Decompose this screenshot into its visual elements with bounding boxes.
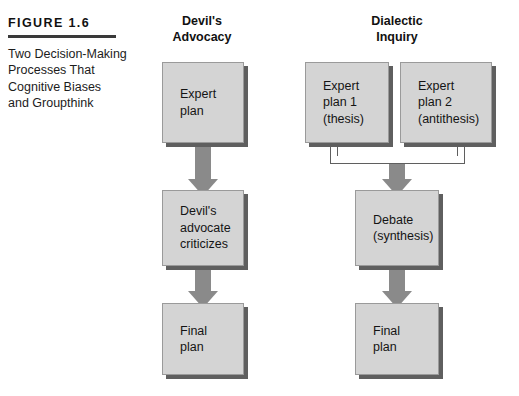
caption-line: and Groupthink [8, 95, 148, 112]
process-box-label: Final plan [356, 323, 400, 356]
process-box-label: Expert plan 1 (thesis) [306, 78, 364, 128]
box-text-line: plan [180, 103, 216, 120]
process-box-expert-plan-2-antithesis: Expert plan 2 (antithesis) [400, 62, 492, 143]
caption-line: Two Decision-Making [8, 46, 148, 63]
merge-connector-to-debate [330, 143, 465, 165]
process-box-label: Devil's advocate criticizes [163, 203, 231, 253]
arrow-debate-to-final-plan [381, 262, 413, 308]
heading-line: Dialectic [345, 14, 449, 30]
heading-line: Advocacy [150, 30, 254, 46]
box-text-line: Expert [323, 78, 364, 95]
box-text-line: (antithesis) [418, 111, 479, 128]
column-heading-devils-advocacy: Devil's Advocacy [150, 14, 254, 45]
box-text-line: Expert [418, 78, 479, 95]
caption-divider-rule [8, 35, 116, 38]
box-text-line: (synthesis) [373, 228, 433, 245]
arrow-shaft [389, 262, 405, 291]
figure-number-label: FIGURE 1.6 [8, 16, 148, 30]
box-text-line: Devil's [180, 203, 231, 220]
process-box-label: Final plan [163, 323, 207, 356]
box-text-line: Final [180, 323, 207, 340]
connector-stub-right [457, 143, 465, 157]
arrow-shaft [195, 138, 211, 179]
connector-stub-left [330, 143, 338, 157]
connector-crossbar [330, 156, 465, 164]
process-box-label: Expert plan 2 (antithesis) [401, 78, 479, 128]
heading-line: Devil's [150, 14, 254, 30]
figure-caption: FIGURE 1.6 Two Decision-Making Processes… [8, 16, 148, 112]
caption-line: Cognitive Biases [8, 79, 148, 96]
arrow-shaft [195, 262, 211, 291]
box-text-line: Final [373, 323, 400, 340]
heading-line: Inquiry [345, 30, 449, 46]
box-text-line: Debate [373, 212, 433, 229]
process-box-label: Debate (synthesis) [356, 212, 433, 245]
arrow-expert-plan-to-devils-advocate [187, 138, 219, 196]
process-box-expert-plan: Expert plan [162, 62, 244, 143]
arrow-devils-advocate-to-final-plan [187, 262, 219, 308]
box-text-line: plan [373, 339, 400, 356]
box-text-line: plan 2 [418, 94, 479, 111]
box-text-line: advocate [180, 220, 231, 237]
process-box-expert-plan-1-thesis: Expert plan 1 (thesis) [305, 62, 389, 143]
box-text-line: plan [180, 339, 207, 356]
box-text-line: (thesis) [323, 111, 364, 128]
process-box-final-plan-devils-advocacy: Final plan [162, 303, 244, 375]
process-box-label: Expert plan [163, 86, 216, 119]
caption-line: Processes That [8, 62, 148, 79]
column-heading-dialectic-inquiry: Dialectic Inquiry [345, 14, 449, 45]
box-text-line: criticizes [180, 236, 231, 253]
process-box-final-plan-dialectic-inquiry: Final plan [355, 303, 439, 375]
figure-caption-text: Two Decision-Making Processes That Cogni… [8, 46, 148, 112]
box-text-line: plan 1 [323, 94, 364, 111]
process-box-debate-synthesis: Debate (synthesis) [355, 190, 439, 266]
process-box-devils-advocate-criticizes: Devil's advocate criticizes [162, 190, 244, 266]
box-text-line: Expert [180, 86, 216, 103]
